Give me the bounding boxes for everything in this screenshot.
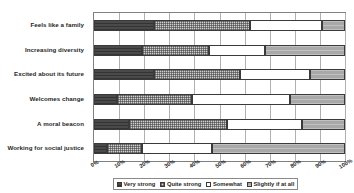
bar-segment: [290, 94, 345, 105]
gridline: [245, 13, 246, 161]
bar-segment: [94, 20, 154, 31]
legend-label: Quite strong: [167, 181, 201, 187]
bar-segment: [154, 20, 249, 31]
bar-row: [94, 119, 345, 130]
bar-segment: [322, 20, 345, 31]
y-axis-label: A moral beacon: [0, 120, 84, 127]
bar-segment: [240, 69, 310, 80]
bar-segment: [129, 119, 227, 130]
gridline: [194, 13, 195, 161]
bar-segment: [117, 94, 192, 105]
bar-segment: [209, 45, 264, 56]
bar-segment: [265, 45, 345, 56]
legend-swatch-icon: [206, 182, 211, 187]
bar-segment: [154, 69, 239, 80]
plot-area: [93, 12, 346, 162]
bar-row: [94, 45, 345, 56]
bar-segment: [94, 119, 129, 130]
bar-segment: [94, 45, 142, 56]
bar-segment: [94, 143, 107, 154]
x-axis-tick-labels: 0%10%20%30%40%50%60%70%80%90%100%: [93, 161, 344, 173]
gridline: [169, 13, 170, 161]
gridline: [220, 13, 221, 161]
bar-row: [94, 94, 345, 105]
bar-row: [94, 69, 345, 80]
bar-row: [94, 20, 345, 31]
legend-label: Slightly if at all: [253, 181, 294, 187]
gridline: [320, 13, 321, 161]
bar-segment: [142, 45, 210, 56]
gridline: [270, 13, 271, 161]
legend-item: Very strong: [117, 181, 155, 187]
legend-swatch-icon: [247, 182, 252, 187]
bar-row: [94, 143, 345, 154]
bar-segment: [107, 143, 142, 154]
bar-segment: [94, 69, 154, 80]
stacked-bar-chart: Feels like a familyIncreasing diversityE…: [0, 0, 354, 193]
legend-item: Somewhat: [206, 181, 242, 187]
chart-legend: Very strongQuite strongSomewhatSlightly …: [113, 178, 298, 190]
y-axis-label: Working for social justice: [0, 144, 84, 151]
y-axis-label: Excited about its future: [0, 70, 84, 77]
bar-segment: [212, 143, 345, 154]
bar-segment: [192, 94, 290, 105]
legend-label: Somewhat: [213, 181, 242, 187]
legend-label: Very strong: [124, 181, 156, 187]
bar-segment: [142, 143, 212, 154]
gridline: [144, 13, 145, 161]
bar-segment: [227, 119, 302, 130]
legend-swatch-icon: [160, 182, 165, 187]
y-axis-label: Welcomes change: [0, 95, 84, 102]
legend-item: Slightly if at all: [247, 181, 294, 187]
y-axis-label: Increasing diversity: [0, 46, 84, 53]
gridline: [119, 13, 120, 161]
legend-item: Quite strong: [160, 181, 201, 187]
x-axis-tick-label: 0%: [89, 159, 99, 168]
gridline: [345, 13, 346, 161]
y-axis-category-labels: Feels like a familyIncreasing diversityE…: [0, 12, 88, 160]
bar-segment: [250, 20, 323, 31]
bar-segment: [302, 119, 345, 130]
bar-segment: [310, 69, 345, 80]
gridline: [295, 13, 296, 161]
legend-swatch-icon: [117, 182, 122, 187]
y-axis-label: Feels like a family: [0, 21, 84, 28]
bar-segment: [94, 94, 117, 105]
